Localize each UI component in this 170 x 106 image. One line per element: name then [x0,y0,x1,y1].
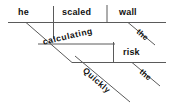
word-verb: scaled [62,8,91,17]
sentence-diagram-canvas: he scaled wall the calculating risk the … [0,0,170,106]
word-participle-object: risk [123,48,140,57]
word-subject: he [18,8,29,17]
word-direct-object: wall [119,8,137,17]
